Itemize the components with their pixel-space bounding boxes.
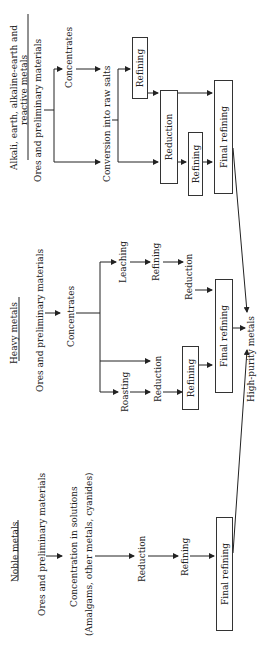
alkali-reduction-box: Reduction (160, 90, 178, 184)
heavy-title: Heavy metals (9, 302, 19, 364)
alkali-final-refining-box: Final refining (214, 80, 233, 194)
heavy-roasting-label: Roasting (120, 372, 130, 412)
alkali-title-line1: Alkali, earth, alkaline-earth and (9, 25, 19, 170)
high-purity-metals-label: High-purity metals (246, 316, 256, 402)
noble-title: Noble metals (10, 522, 20, 582)
noble-ores-label: Ores and preliminary materials (37, 473, 47, 616)
alkali-conversion-label: Conversion into raw salts (102, 66, 112, 182)
heavy-leach-reduction-label: Reduction (184, 254, 194, 300)
heavy-concentrates-label: Concentrates (66, 286, 76, 347)
heavy-final-refining-box: Final refining (215, 279, 233, 393)
heavy-refining-box: Refining (182, 346, 199, 410)
noble-refining-label: Refining (180, 538, 190, 576)
alkali-ores-label: Ores and preliminary materials (33, 39, 43, 182)
alkali-title-line2: reactive metals (19, 55, 29, 125)
alkali-concentrates-label: Concentrates (64, 27, 74, 88)
alkali-refining-box-2: Refining (188, 132, 203, 196)
noble-concentration-note: (Amalgams, other metals, cyanides) (84, 472, 94, 636)
heavy-ores-label: Ores and preliminary materials (35, 249, 45, 392)
heavy-leaching-label: Leaching (118, 241, 128, 283)
noble-reduction-label: Reduction (137, 536, 147, 582)
noble-concentration-label: Concentration in solutions (69, 486, 79, 607)
heavy-leach-refining-label: Refining (151, 243, 161, 281)
heavy-reduction-label: Reduction (153, 356, 163, 402)
noble-final-refining-box: Final refining (216, 517, 233, 631)
alkali-refining-box-1: Refining (132, 37, 148, 99)
